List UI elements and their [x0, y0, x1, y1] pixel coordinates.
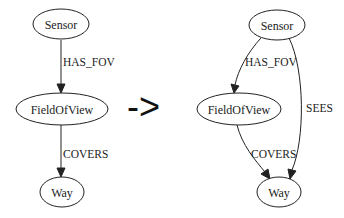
graph-transformation-diagram: HAS_FOV COVERS Sensor FieldOfView Way ->	[0, 0, 344, 218]
node-label: FieldOfView	[208, 103, 271, 117]
node-way-after: Way	[257, 177, 301, 207]
node-way-before: Way	[40, 177, 84, 207]
edge-has-fov-after: HAS_FOV	[231, 38, 297, 93]
before-graph: HAS_FOV COVERS Sensor FieldOfView Way	[16, 9, 115, 207]
edge-label-has-fov: HAS_FOV	[63, 56, 115, 68]
node-label: Way	[268, 186, 290, 200]
arrowhead-icon	[57, 168, 65, 177]
transform-arrow-icon: ->	[127, 86, 160, 127]
edge-covers-before: COVERS	[57, 125, 108, 177]
arrowhead-icon	[261, 169, 270, 179]
edge-covers-after: COVERS	[237, 125, 296, 179]
after-graph: HAS_FOV COVERS SEES Sensor FieldOfView W…	[197, 10, 333, 207]
edge-has-fov-before: HAS_FOV	[57, 40, 115, 93]
edge-label-sees: SEES	[306, 102, 333, 114]
arrowhead-icon	[231, 84, 239, 93]
node-fieldofview-before: FieldOfView	[16, 93, 108, 125]
arrowhead-icon	[57, 84, 65, 93]
node-label: Sensor	[45, 18, 78, 32]
node-sensor-before: Sensor	[33, 9, 89, 39]
edge-label-covers: COVERS	[63, 148, 108, 160]
node-label: FieldOfView	[31, 103, 94, 117]
edge-label-covers: COVERS	[251, 148, 296, 160]
node-fieldofview-after: FieldOfView	[197, 93, 281, 125]
arrowhead-icon	[288, 169, 296, 179]
node-sensor-after: Sensor	[249, 10, 305, 40]
node-label: Way	[51, 186, 73, 200]
node-label: Sensor	[261, 19, 294, 33]
edge-label-has-fov: HAS_FOV	[245, 56, 297, 68]
